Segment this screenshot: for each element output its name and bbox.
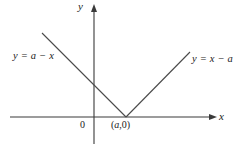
right-branch-equation-label: y = x − a: [192, 54, 233, 65]
vertex-rest: ,0): [119, 119, 130, 130]
x-axis-arrowhead: [209, 114, 217, 120]
x-axis-label: x: [219, 111, 224, 122]
y-axis-label: y: [78, 1, 83, 12]
vertex-point-label: (a,0): [111, 120, 130, 130]
left-branch-line: [42, 33, 126, 117]
left-branch-equation-label: y = a − x: [13, 51, 54, 62]
origin-label: 0: [80, 120, 85, 130]
right-branch-line: [126, 52, 190, 117]
y-axis-arrowhead: [91, 4, 97, 12]
graph-figure: y x y = a − x y = x − a 0 (a,0): [0, 0, 244, 150]
